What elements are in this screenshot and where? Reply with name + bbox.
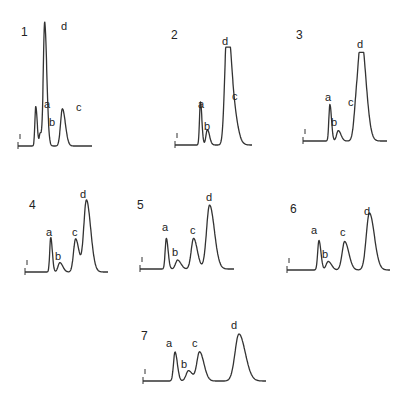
peak-label-a: a <box>44 98 51 110</box>
panel-number: 5 <box>137 198 144 212</box>
peak-label-c: c <box>72 226 78 238</box>
peak-label-d: d <box>357 38 363 50</box>
chromatogram-trace <box>303 52 387 141</box>
chromatogram-trace <box>140 205 234 269</box>
peak-label-a: a <box>311 224 318 236</box>
peak-label-d: d <box>80 188 86 200</box>
peak-label-b: b <box>49 116 55 128</box>
peak-label-a: a <box>325 91 332 103</box>
chromatogram-panel-6: 6abcd <box>287 202 390 273</box>
panel-number: 3 <box>296 28 303 42</box>
peak-label-a: a <box>166 337 173 349</box>
peak-label-d: d <box>222 35 228 47</box>
peak-label-a: a <box>162 221 169 233</box>
peak-label-d: d <box>364 205 370 217</box>
peak-label-c: c <box>348 96 354 108</box>
chromatogram-trace <box>175 47 252 145</box>
peak-label-b: b <box>181 358 187 370</box>
peak-label-d: d <box>206 191 212 203</box>
peak-label-b: b <box>55 250 61 262</box>
panel-number: 4 <box>29 198 36 212</box>
chromatogram-trace <box>25 200 108 272</box>
peak-label-c: c <box>340 226 346 238</box>
chromatogram-trace <box>143 334 266 381</box>
chromatogram-panel-1: 1abdc <box>18 20 92 149</box>
chromatogram-trace <box>287 213 390 270</box>
panel-number: 2 <box>171 28 178 42</box>
peak-label-b: b <box>331 116 337 128</box>
peak-label-c: c <box>76 101 82 113</box>
chromatogram-panel-7: 7abcd <box>141 319 266 384</box>
peak-label-c: c <box>232 90 238 102</box>
peak-label-d: d <box>61 20 67 32</box>
panel-number: 7 <box>141 329 148 343</box>
peak-label-a: a <box>198 98 205 110</box>
peak-label-c: c <box>192 337 198 349</box>
panel-number: 1 <box>21 25 28 39</box>
chromatogram-panel-3: 3abcd <box>296 28 387 144</box>
peak-label-d: d <box>231 319 237 331</box>
peak-label-b: b <box>172 246 178 258</box>
peak-label-c: c <box>190 224 196 236</box>
chromatogram-panel-5: 5abcd <box>137 191 234 272</box>
peak-label-b: b <box>322 248 328 260</box>
peak-label-a: a <box>46 226 53 238</box>
peak-label-b: b <box>204 120 210 132</box>
panel-number: 6 <box>290 202 297 216</box>
chromatogram-figure: 1abdc2abdc3abcd4abcd5abcd6abcd7abcd <box>0 0 405 416</box>
chromatogram-panel-4: 4abcd <box>25 188 108 275</box>
chromatogram-panel-2: 2abdc <box>171 28 252 148</box>
